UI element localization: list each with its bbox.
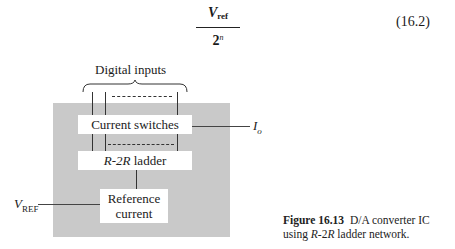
output-line [192, 126, 250, 127]
output-current-label: Io [253, 118, 262, 136]
input-line-n [177, 92, 178, 115]
current-switches-block: Current switches [78, 115, 192, 134]
vref-label: VREF [14, 196, 38, 214]
ladder-reference-line [136, 170, 137, 189]
vref-line [38, 204, 100, 205]
input-ellipsis-dashes [112, 96, 172, 97]
brace-icon [82, 80, 188, 94]
switch-line-n [177, 134, 178, 151]
input-line-2 [105, 92, 106, 115]
equation-number: (16.2) [396, 14, 430, 30]
r2r-ladder-block: R-2R ladder [78, 151, 192, 170]
equation-denominator: 2n [196, 30, 240, 49]
reference-current-block: Reference current [100, 189, 168, 223]
equation-numerator: Vref [196, 4, 240, 25]
equation-fraction: Vref 2n [196, 4, 240, 49]
input-line-1 [92, 92, 93, 115]
switch-ellipsis-dashes [108, 144, 174, 145]
fraction-bar [196, 27, 240, 28]
switch-line-1 [92, 134, 93, 151]
digital-inputs-label: Digital inputs [95, 62, 166, 78]
figure-caption: Figure 16.13 D/A converter IC using R-2R… [283, 213, 455, 241]
switch-line-2 [105, 134, 106, 151]
